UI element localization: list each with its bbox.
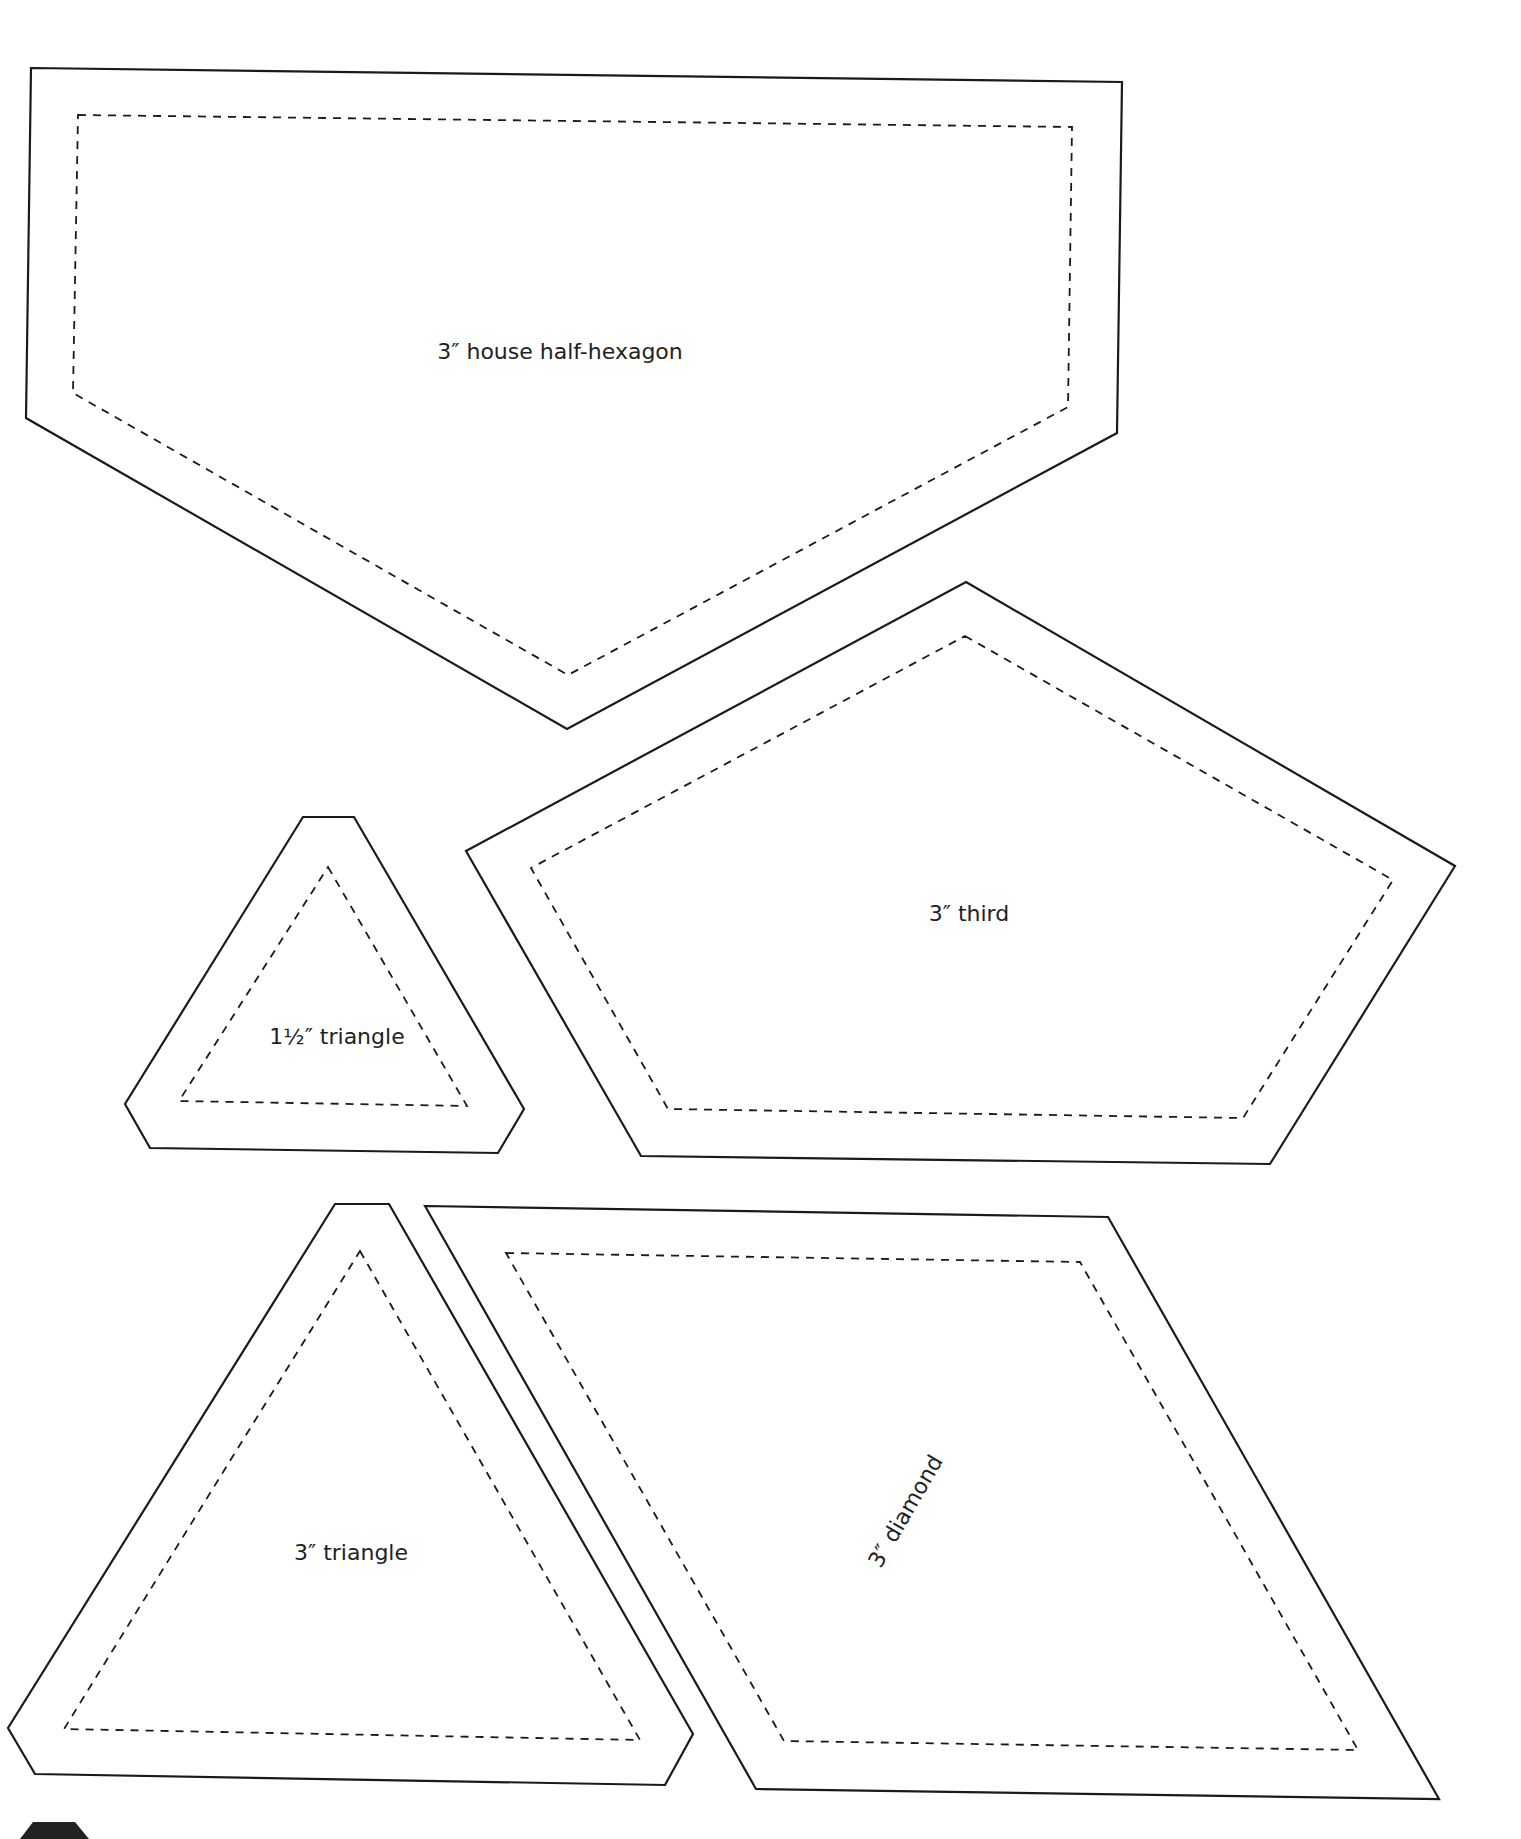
sewing-line [179,867,467,1106]
template-label: 3″ diamond [863,1451,947,1572]
template-label: 3″ house half-hexagon [437,339,683,364]
sewing-line [73,115,1072,675]
corner-tab-mark [20,1822,89,1839]
cut-line [8,1204,693,1785]
template-label: 3″ third [929,901,1010,926]
sewing-line [531,636,1393,1118]
template-label: 1½″ triangle [269,1024,404,1049]
template-small-triangle: 1½″ triangle [125,817,524,1153]
template-label: 3″ triangle [294,1540,408,1565]
cut-line [466,582,1455,1164]
template-third: 3″ third [466,582,1455,1164]
template-house-half-hexagon: 3″ house half-hexagon [26,68,1122,729]
template-diamond: 3″ diamond [425,1206,1439,1799]
sewing-line [64,1251,640,1740]
cut-line [425,1206,1439,1799]
cut-line [26,68,1122,729]
template-triangle: 3″ triangle [8,1204,693,1785]
sewing-line [506,1253,1358,1750]
